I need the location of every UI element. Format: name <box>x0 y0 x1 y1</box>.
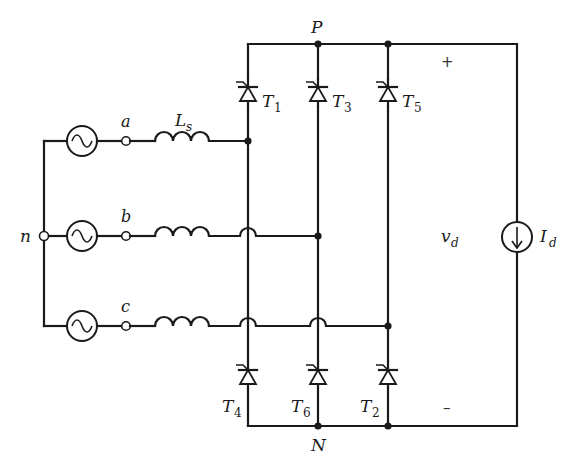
thyristor-t5-icon <box>376 80 398 106</box>
t4-label: T 4 <box>222 396 242 420</box>
svg-text:v: v <box>441 226 451 246</box>
phase-b-line <box>209 228 318 236</box>
junction-dot-a <box>244 137 251 144</box>
junction-dot-p2 <box>384 40 391 47</box>
junction-dot-b <box>314 232 321 239</box>
t6-label: T 6 <box>291 396 311 420</box>
circuit-diagram: P N n a b c L s T 1 T 3 T 5 T 4 T 6 T 2 … <box>0 0 580 472</box>
node-n-label: N <box>310 435 327 455</box>
inductor-a-icon <box>155 132 209 141</box>
inductor-label: L s <box>174 110 192 134</box>
svg-text:3: 3 <box>344 101 352 115</box>
junction-dot-c <box>384 322 391 329</box>
phase-c-label: c <box>121 297 130 316</box>
ac-source-a-icon <box>67 126 97 156</box>
load-current-label: I d <box>539 226 557 250</box>
svg-text:L: L <box>174 110 186 130</box>
thyristor-t2-icon <box>376 362 398 388</box>
ac-source-b-icon <box>67 221 97 251</box>
svg-text:I: I <box>539 226 547 246</box>
t1-label: T 1 <box>262 91 282 115</box>
neutral-node-terminal <box>40 232 49 241</box>
minus-sign: – <box>443 399 451 417</box>
inductor-b-icon <box>155 227 209 236</box>
thyristor-t6-icon <box>306 362 328 388</box>
thyristor-t4-icon <box>236 362 258 388</box>
phase-c-line <box>209 318 388 326</box>
current-source-icon <box>502 222 532 252</box>
svg-text:4: 4 <box>234 406 242 420</box>
circuit-schematic: P N n a b c L s T 1 T 3 T 5 T 4 T 6 T 2 … <box>0 0 580 472</box>
thyristor-t3-icon <box>306 80 328 106</box>
svg-text:2: 2 <box>372 406 380 420</box>
phase-b-label: b <box>121 207 131 226</box>
junction-dot-n1 <box>314 422 321 429</box>
svg-text:6: 6 <box>303 406 311 420</box>
svg-text:5: 5 <box>414 101 422 115</box>
junction-dot-p1 <box>314 40 321 47</box>
node-p-label: P <box>310 17 323 37</box>
inductor-c-icon <box>155 317 209 326</box>
t5-label: T 5 <box>402 91 422 115</box>
output-voltage-label: v d <box>441 226 459 250</box>
svg-text:1: 1 <box>274 101 282 115</box>
junction-dot-n2 <box>384 422 391 429</box>
t2-label: T 2 <box>360 396 380 420</box>
svg-text:s: s <box>186 120 192 134</box>
svg-text:d: d <box>549 236 557 250</box>
t3-label: T 3 <box>332 91 352 115</box>
phase-a-label: a <box>121 112 131 131</box>
plus-sign: + <box>441 53 454 71</box>
svg-text:d: d <box>451 236 459 250</box>
neutral-label: n <box>20 226 31 246</box>
ac-source-c-icon <box>67 311 97 341</box>
thyristor-t1-icon <box>236 80 258 106</box>
